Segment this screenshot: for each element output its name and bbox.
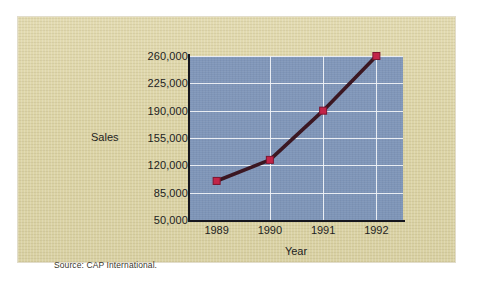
data-point-marker (373, 53, 380, 60)
x-axis-tick-label: 1992 (364, 224, 388, 236)
sales-line (217, 56, 377, 181)
data-point-marker (266, 156, 273, 163)
y-axis-tick-label: 120,000 (22, 159, 188, 171)
x-axis-tick-label: 1990 (258, 224, 282, 236)
y-axis-tick-label: 85,000 (22, 187, 188, 199)
y-axis-title: Sales (91, 131, 119, 143)
sales-line-series (190, 56, 403, 220)
x-axis-line (188, 220, 405, 222)
data-point-marker (213, 177, 220, 184)
x-axis-title: Year (285, 245, 307, 257)
source-note: Source: CAP International. (54, 260, 157, 270)
y-axis-tick-label: 260,000 (22, 50, 188, 62)
plot-area (190, 56, 403, 220)
y-axis-tick-label: 50,000 (22, 214, 188, 226)
x-axis-tick-label: 1991 (311, 224, 335, 236)
chart-figure: 50,00085,000120,000155,000190,000225,000… (0, 0, 477, 287)
y-axis-tick-label: 225,000 (22, 77, 188, 89)
x-axis-tick-label: 1989 (204, 224, 228, 236)
y-axis-tick-label: 190,000 (22, 105, 188, 117)
data-point-marker (320, 107, 327, 114)
figure-panel: 50,00085,000120,000155,000190,000225,000… (18, 17, 455, 262)
y-axis-tick-labels: 50,00085,000120,000155,000190,000225,000… (18, 17, 188, 287)
